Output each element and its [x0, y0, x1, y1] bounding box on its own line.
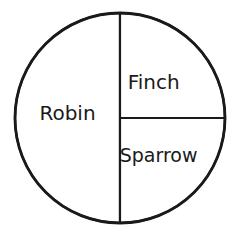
pie-label-sparrow: Sparrow: [120, 144, 198, 166]
pie-label-finch: Finch: [128, 70, 180, 94]
pie-label-robin: Robin: [39, 101, 95, 125]
pie-slice-sparrow: [120, 118, 225, 223]
pie-chart: RobinSparrowFinch: [0, 0, 230, 230]
pie-slice-finch: [120, 13, 225, 118]
